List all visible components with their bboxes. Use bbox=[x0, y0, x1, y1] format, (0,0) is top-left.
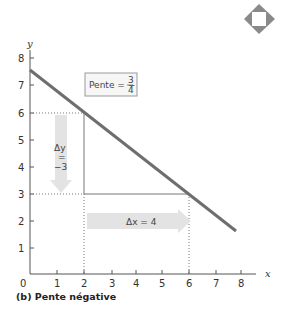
y-tick-labels: 1 2 3 4 5 6 7 8 bbox=[18, 53, 24, 254]
svg-text:3: 3 bbox=[128, 75, 134, 85]
delta-y-equals: = bbox=[58, 152, 66, 162]
delta-x-label: Δx = 4 bbox=[126, 217, 157, 227]
svg-text:7: 7 bbox=[18, 80, 24, 91]
svg-text:4: 4 bbox=[128, 85, 134, 95]
svg-text:2: 2 bbox=[81, 278, 87, 289]
y-ticks bbox=[30, 58, 34, 248]
delta-y-value: −3 bbox=[54, 162, 67, 172]
svg-text:8: 8 bbox=[18, 53, 24, 64]
svg-text:3: 3 bbox=[18, 189, 24, 200]
svg-text:6: 6 bbox=[18, 108, 24, 119]
svg-text:2: 2 bbox=[18, 216, 24, 227]
chart: 1 2 3 4 5 6 7 8 y 0 1 2 3 4 5 6 7 8 x bbox=[0, 0, 288, 313]
diamond-nav-icon[interactable] bbox=[244, 4, 275, 34]
svg-text:4: 4 bbox=[133, 278, 139, 289]
svg-text:3: 3 bbox=[109, 278, 115, 289]
svg-text:4: 4 bbox=[18, 162, 24, 173]
svg-text:6: 6 bbox=[186, 278, 192, 289]
x-ticks bbox=[57, 270, 241, 274]
x-tick-labels: 0 1 2 3 4 5 6 7 8 bbox=[20, 278, 244, 289]
svg-text:8: 8 bbox=[238, 278, 244, 289]
svg-text:5: 5 bbox=[18, 135, 24, 146]
y-axis-label: y bbox=[26, 38, 33, 49]
x-axis-label: x bbox=[265, 268, 271, 279]
svg-text:1: 1 bbox=[54, 278, 60, 289]
slope-label-box: Pente = − 3 4 bbox=[85, 73, 137, 96]
svg-text:1: 1 bbox=[18, 243, 24, 254]
svg-text:5: 5 bbox=[159, 278, 165, 289]
svg-text:7: 7 bbox=[213, 278, 219, 289]
figure-caption: (b) Pente négative bbox=[16, 291, 116, 302]
svg-text:0: 0 bbox=[20, 278, 26, 289]
